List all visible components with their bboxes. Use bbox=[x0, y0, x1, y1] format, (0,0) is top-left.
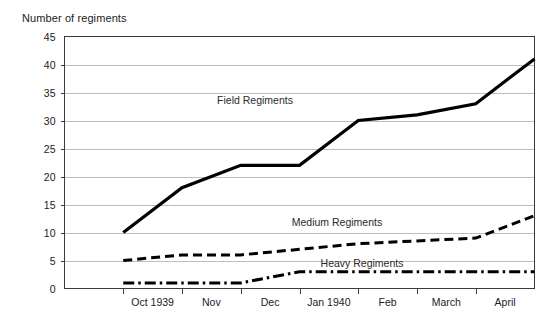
chart-plot-area: 051015202530354045 Oct 1939NovDecJan 194… bbox=[0, 0, 557, 325]
y-tick-label: 35 bbox=[44, 87, 56, 99]
y-tick-label: 20 bbox=[44, 171, 56, 183]
y-tick-label: 15 bbox=[44, 199, 56, 211]
series-annotation: Heavy Regiments bbox=[321, 257, 404, 269]
y-tick-label: 25 bbox=[44, 143, 56, 155]
x-tick-label: March bbox=[432, 296, 461, 308]
series-line-heavy-regiments bbox=[123, 272, 534, 283]
y-tick-label: 5 bbox=[50, 255, 56, 267]
data-series bbox=[123, 59, 534, 283]
y-tick-label: 10 bbox=[44, 227, 56, 239]
series-line-field-regiments bbox=[123, 59, 534, 233]
x-tick-label: Dec bbox=[261, 296, 280, 308]
series-annotation: Medium Regiments bbox=[292, 216, 382, 228]
x-tick-label: April bbox=[495, 296, 516, 308]
series-annotation: Field Regiments bbox=[217, 94, 293, 106]
y-tick-label: 0 bbox=[50, 283, 56, 295]
y-axis: 051015202530354045 bbox=[44, 31, 65, 295]
x-axis: Oct 1939NovDecJan 1940FebMarchApril bbox=[124, 289, 516, 308]
x-tick-label: Feb bbox=[379, 296, 397, 308]
x-tick-label: Oct 1939 bbox=[131, 296, 174, 308]
y-tick-label: 40 bbox=[44, 59, 56, 71]
y-tick-label: 45 bbox=[44, 31, 56, 43]
x-tick-label: Nov bbox=[202, 296, 221, 308]
line-chart: Number of regiments 051015202530354045 O… bbox=[0, 0, 557, 325]
y-tick-label: 30 bbox=[44, 115, 56, 127]
x-tick-label: Jan 1940 bbox=[307, 296, 350, 308]
